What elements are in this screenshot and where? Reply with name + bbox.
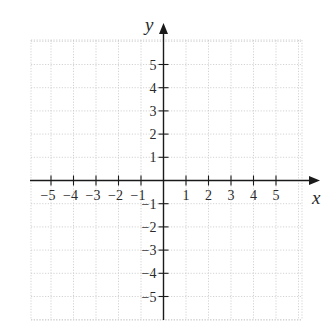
x-ticks: −5−4−3−2−112345 bbox=[41, 176, 280, 203]
y-tick-label: −1 bbox=[142, 197, 157, 212]
x-tick-label: 2 bbox=[205, 188, 212, 203]
x-tick-label: −3 bbox=[86, 188, 101, 203]
coordinate-plane: −5−4−3−2−112345 54321−1−2−3−4−5 x y bbox=[0, 0, 334, 335]
y-tick-label: 3 bbox=[150, 104, 157, 119]
y-tick-label: −4 bbox=[142, 266, 157, 281]
x-axis-label: x bbox=[311, 187, 321, 208]
x-tick-label: −5 bbox=[41, 188, 56, 203]
y-tick-label: 1 bbox=[150, 150, 157, 165]
y-tick-label: −3 bbox=[142, 243, 157, 258]
y-tick-label: −2 bbox=[142, 220, 157, 235]
x-tick-label: 4 bbox=[250, 188, 257, 203]
y-tick-label: 5 bbox=[150, 58, 157, 73]
x-tick-label: −2 bbox=[108, 188, 123, 203]
x-tick-label: 3 bbox=[228, 188, 235, 203]
y-axis-label: y bbox=[143, 14, 154, 35]
y-tick-label: 4 bbox=[150, 81, 157, 96]
y-tick-label: 2 bbox=[150, 127, 157, 142]
x-tick-label: 1 bbox=[183, 188, 190, 203]
x-axis-arrow-icon bbox=[309, 176, 320, 185]
y-axis-arrow-icon bbox=[159, 23, 168, 34]
x-tick-label: −4 bbox=[63, 188, 78, 203]
y-tick-label: −5 bbox=[142, 290, 157, 305]
x-tick-label: 5 bbox=[273, 188, 280, 203]
